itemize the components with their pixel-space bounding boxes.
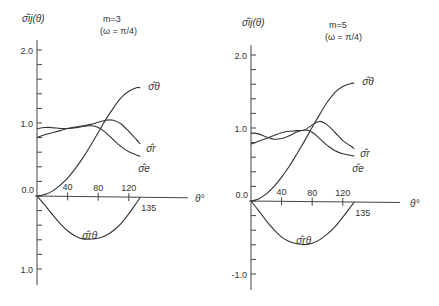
y-axis-label: σ̂ij(θ) bbox=[242, 17, 265, 28]
x-end-label: 135 bbox=[355, 208, 370, 218]
chart-subtitle: (ω = π/4) bbox=[325, 32, 362, 42]
x-tick-label: 80 bbox=[307, 188, 317, 198]
origin-label: 0.0 bbox=[235, 190, 248, 200]
x-axis bbox=[249, 201, 400, 202]
chart-1-axes: 2.01.0-1.00.04080120135θ°σ̂ij(θ)m=5(ω = … bbox=[231, 17, 419, 290]
chart-m5-svg: 2.01.0-1.00.04080120135θ°σ̂ij(θ)m=5(ω = … bbox=[0, 0, 439, 306]
series-label: σ̂θ bbox=[362, 76, 374, 87]
series-label: σ̂e bbox=[352, 163, 364, 174]
series-σ̂θ bbox=[251, 83, 354, 201]
y-tick-label: -1.0 bbox=[231, 270, 247, 280]
y-tick-label: 1.0 bbox=[234, 124, 247, 134]
x-axis-label: θ° bbox=[410, 198, 419, 209]
x-tick-label: 40 bbox=[277, 187, 287, 197]
chart-m5: 2.01.0-1.00.04080120135θ°σ̂ij(θ)m=5(ω = … bbox=[0, 0, 439, 306]
x-tick-label: 120 bbox=[335, 188, 350, 198]
series-label: σ̂rθ bbox=[296, 235, 311, 246]
y-tick-label: 2.0 bbox=[234, 51, 247, 61]
series-label: σ̂r bbox=[360, 148, 370, 159]
chart-title: m=5 bbox=[329, 20, 347, 30]
series-σ̂e bbox=[251, 130, 354, 156]
